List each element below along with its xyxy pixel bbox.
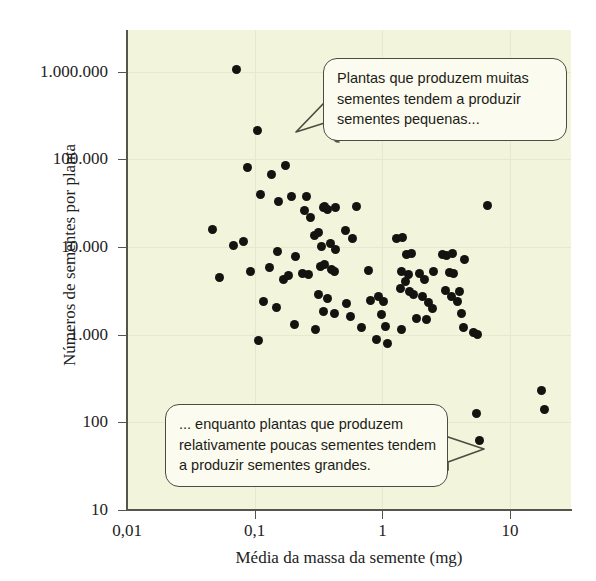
data-point xyxy=(429,267,438,276)
data-point xyxy=(377,310,386,319)
data-point xyxy=(287,192,296,201)
data-point xyxy=(254,336,263,345)
data-point xyxy=(428,304,437,313)
y-tick-mark xyxy=(118,335,127,336)
y-tick-label: 100.000 xyxy=(0,149,114,169)
x-axis-line xyxy=(126,509,572,511)
scatter-plot-figure: 101001.00010.000100.0001.000.000 0,010,1… xyxy=(0,0,596,581)
data-point xyxy=(317,242,326,251)
x-tick-mark xyxy=(382,510,383,519)
data-point xyxy=(311,325,320,334)
x-tick-label: 1 xyxy=(378,521,387,540)
gridline-horizontal xyxy=(127,335,571,336)
data-point xyxy=(352,202,361,211)
data-point xyxy=(304,270,313,279)
data-point xyxy=(342,299,351,308)
data-point xyxy=(323,294,332,303)
data-point xyxy=(302,192,311,201)
data-point xyxy=(314,290,323,299)
callout-few-large-seeds: ... enquanto plantas que produzem relati… xyxy=(165,404,448,487)
gridline-horizontal xyxy=(127,159,571,160)
data-point xyxy=(422,315,431,324)
y-tick-mark xyxy=(118,510,127,511)
data-point xyxy=(455,287,464,296)
y-tick-label: 10 xyxy=(0,500,114,520)
data-point xyxy=(412,314,421,323)
callout-bottom-line-2: relativamente poucas sementes tendem xyxy=(179,435,434,456)
data-point xyxy=(341,226,350,235)
x-tick-label: 0,01 xyxy=(112,521,142,540)
y-tick-label: 100 xyxy=(0,412,114,432)
data-point xyxy=(291,252,300,261)
y-tick-mark xyxy=(118,72,127,73)
x-axis-title: Média da massa da semente (mg) xyxy=(127,548,571,568)
data-point xyxy=(272,303,281,312)
data-point xyxy=(379,297,388,306)
data-point xyxy=(483,201,492,210)
data-point xyxy=(229,241,238,250)
callout-many-small-seeds: Plantas que produzem muitas sementes ten… xyxy=(323,58,567,141)
data-point xyxy=(243,163,252,172)
x-tick-mark xyxy=(510,510,511,519)
x-tick-mark xyxy=(255,510,256,519)
data-point xyxy=(449,269,458,278)
callout-top-line-3: sementes pequenas... xyxy=(337,109,553,130)
data-point xyxy=(381,322,390,331)
data-point xyxy=(460,255,469,264)
data-point xyxy=(253,126,262,135)
data-point xyxy=(215,273,224,282)
data-point xyxy=(267,170,276,179)
data-point xyxy=(396,284,405,293)
y-axis-line xyxy=(126,30,128,511)
data-point xyxy=(420,275,429,284)
data-point xyxy=(319,307,328,316)
data-point xyxy=(383,339,392,348)
y-tick-mark xyxy=(118,422,127,423)
data-point xyxy=(284,271,293,280)
y-axis-title: Números de sementes por planta xyxy=(60,45,80,465)
callout-top-line-2: sementes tendem a produzir xyxy=(337,89,553,110)
callout-top-line-1: Plantas que produzem muitas xyxy=(337,68,553,89)
data-point xyxy=(457,309,466,318)
data-point xyxy=(331,245,340,254)
callout-bottom-line-1: ... enquanto plantas que produzem xyxy=(179,414,434,435)
y-tick-label: 1.000 xyxy=(0,325,114,345)
data-point xyxy=(346,312,355,321)
data-point xyxy=(397,325,406,334)
data-point xyxy=(348,234,357,243)
data-point xyxy=(208,225,217,234)
callout-bottom-line-3: a produzir sementes grandes. xyxy=(179,455,434,476)
y-tick-label: 10.000 xyxy=(0,237,114,257)
y-tick-mark xyxy=(118,247,127,248)
data-point xyxy=(540,405,549,414)
y-tick-label: 1.000.000 xyxy=(0,62,114,82)
x-tick-label: 10 xyxy=(502,521,519,540)
x-tick-label: 0,1 xyxy=(244,521,265,540)
data-point xyxy=(409,290,418,299)
data-point xyxy=(330,309,339,318)
data-point xyxy=(306,213,315,222)
data-point xyxy=(537,386,546,395)
y-tick-mark xyxy=(118,159,127,160)
gridline-horizontal xyxy=(127,247,571,248)
data-point xyxy=(372,335,381,344)
